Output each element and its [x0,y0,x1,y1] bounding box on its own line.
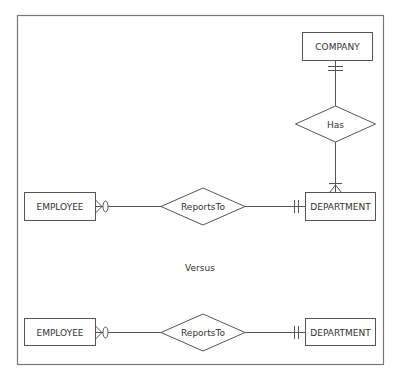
entity-department-top[interactable]: DEPARTMENT [306,193,376,221]
entity-employee-top[interactable]: EMPLOYEE [25,193,96,221]
entity-department-top-label: DEPARTMENT [310,202,371,212]
er-diagram-canvas: COMPANY Has EMPLOYEE ReportsTo [0,0,400,380]
versus-label: Versus [185,263,215,273]
entity-employee-bottom[interactable]: EMPLOYEE [25,319,96,346]
entity-company[interactable]: COMPANY [303,33,373,61]
entity-employee-bottom-label: EMPLOYEE [36,328,83,338]
relationship-has-label: Has [327,120,344,130]
entity-department-bottom[interactable]: DEPARTMENT [306,319,376,346]
entity-department-bottom-label: DEPARTMENT [310,328,371,338]
relationship-reportsto-top-label: ReportsTo [181,202,225,212]
entity-company-label: COMPANY [315,42,360,52]
relationship-reportsto-bottom-label: ReportsTo [181,328,225,338]
entity-employee-top-label: EMPLOYEE [36,202,83,212]
